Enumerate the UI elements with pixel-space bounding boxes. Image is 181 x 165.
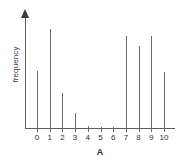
x-axis-tick-8 [139, 128, 140, 132]
bar-mark-7 [126, 36, 127, 128]
x-axis-tick-0 [37, 128, 38, 132]
bar-mark-3 [75, 113, 76, 128]
x-axis-tick-1 [50, 128, 51, 132]
bar-mark-0 [37, 71, 38, 128]
bar-mark-2 [62, 93, 63, 128]
x-axis-tick-9 [151, 128, 152, 132]
x-axis-tick-4 [88, 128, 89, 132]
bar-mark-8 [139, 46, 140, 128]
x-axis-tick-10 [164, 128, 165, 132]
x-axis-tick-3 [75, 128, 76, 132]
bar-mark-10 [164, 72, 165, 128]
plot-area: 012345678910 [0, 0, 181, 165]
x-axis-tick-7 [126, 128, 127, 132]
x-axis-tick-5 [101, 128, 102, 132]
x-axis-tick-2 [62, 128, 63, 132]
bar-mark-1 [50, 29, 51, 128]
bar-mark-9 [151, 36, 152, 128]
x-axis-tick-label-10: 10 [155, 133, 173, 142]
frequency-bar-chart: frequency A 012345678910 [0, 0, 181, 165]
x-axis-tick-6 [113, 128, 114, 132]
